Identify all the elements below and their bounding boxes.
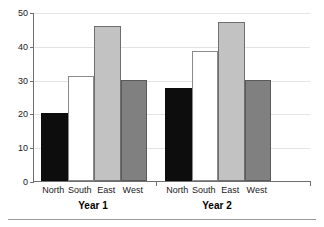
bar-chart: 50403020100 NorthSouthEastWestNorthSouth… bbox=[0, 0, 324, 227]
bar-year-1-south[interactable] bbox=[68, 76, 95, 181]
y-axis-tick bbox=[30, 47, 34, 48]
y-axis-tick bbox=[30, 81, 34, 82]
y-axis-tick bbox=[30, 182, 34, 183]
bar-year-1-west[interactable] bbox=[121, 80, 148, 181]
x-axis-label-south-1: South bbox=[67, 185, 94, 195]
x-axis-label-east-2: East bbox=[217, 185, 244, 195]
gridline bbox=[34, 13, 310, 14]
x-axis-label-east-1: East bbox=[93, 185, 120, 195]
x-axis-group-divider-tick bbox=[156, 181, 157, 186]
y-axis-tick-label: 20 bbox=[18, 110, 28, 119]
x-axis-label-north-2: North bbox=[164, 185, 191, 195]
y-axis-tick bbox=[30, 148, 34, 149]
plot-area: 50403020100 bbox=[33, 13, 310, 182]
bar-year-2-west[interactable] bbox=[245, 80, 272, 181]
y-axis-tick-label: 10 bbox=[18, 144, 28, 153]
gridline bbox=[34, 47, 310, 48]
y-axis-tick-label: 50 bbox=[18, 9, 28, 18]
group-label-year-1: Year 1 bbox=[40, 200, 146, 211]
y-axis-tick-label: 30 bbox=[18, 76, 28, 85]
bar-year-2-south[interactable] bbox=[192, 51, 219, 181]
y-axis-tick-label: 40 bbox=[18, 42, 28, 51]
y-axis-tick bbox=[30, 114, 34, 115]
y-axis-tick-label: 0 bbox=[23, 178, 28, 187]
x-axis-label-north-1: North bbox=[40, 185, 67, 195]
x-axis-label-west-2: West bbox=[244, 185, 271, 195]
bar-year-2-east[interactable] bbox=[218, 22, 245, 181]
bottom-divider bbox=[8, 219, 316, 220]
y-axis-tick bbox=[30, 13, 34, 14]
x-axis-label-west-1: West bbox=[120, 185, 147, 195]
x-axis-label-south-2: South bbox=[191, 185, 218, 195]
bar-year-2-north[interactable] bbox=[165, 88, 192, 181]
bar-year-1-north[interactable] bbox=[41, 113, 68, 181]
bar-year-1-east[interactable] bbox=[94, 26, 121, 181]
group-label-year-2: Year 2 bbox=[164, 200, 270, 211]
x-axis-end-tick bbox=[310, 181, 311, 186]
